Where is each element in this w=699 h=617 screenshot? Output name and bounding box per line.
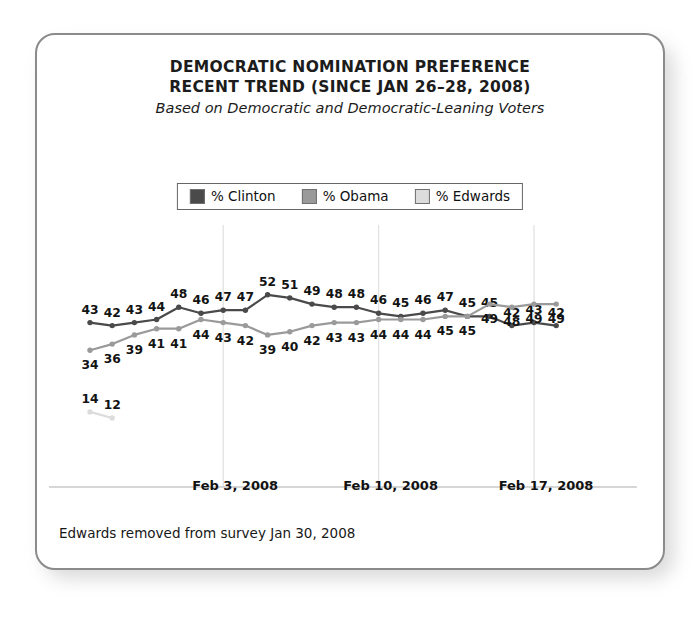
data-label: 49 (481, 312, 498, 326)
data-label: 42 (303, 334, 320, 348)
legend-swatch-obama (302, 189, 317, 204)
data-point[interactable] (376, 311, 381, 316)
data-label: 48 (503, 315, 520, 329)
legend-item-obama[interactable]: % Obama (302, 188, 389, 204)
data-point[interactable] (509, 305, 514, 310)
data-point[interactable] (221, 320, 226, 325)
data-label: 44 (392, 328, 409, 342)
data-label: 49 (525, 312, 542, 326)
chart-title-line-1: DEMOCRATIC NOMINATION PREFERENCE (37, 57, 663, 77)
data-point[interactable] (309, 301, 314, 306)
data-point[interactable] (376, 317, 381, 322)
data-point[interactable] (87, 320, 92, 325)
series-line-edwards (90, 412, 112, 418)
data-point[interactable] (221, 308, 226, 313)
data-point[interactable] (287, 295, 292, 300)
data-label: 39 (259, 343, 276, 357)
data-point[interactable] (110, 323, 115, 328)
x-tick-label-2: Feb 17, 2008 (499, 478, 594, 493)
data-point[interactable] (309, 323, 314, 328)
data-label: 49 (303, 284, 320, 298)
legend-label-obama: % Obama (323, 188, 389, 204)
data-point[interactable] (132, 332, 137, 337)
legend-swatch-edwards (415, 189, 430, 204)
data-point[interactable] (176, 326, 181, 331)
screenshot-root: DEMOCRATIC NOMINATION PREFERENCE RECENT … (0, 0, 699, 617)
data-point[interactable] (554, 301, 559, 306)
data-point[interactable] (332, 305, 337, 310)
data-label: 44 (192, 328, 209, 342)
data-point[interactable] (243, 323, 248, 328)
data-label: 52 (259, 275, 276, 289)
data-label: 48 (326, 287, 343, 301)
data-label: 48 (170, 287, 187, 301)
data-label: 47 (237, 290, 254, 304)
chart-subtitle: Based on Democratic and Democratic-Leani… (37, 100, 663, 116)
legend-item-clinton[interactable]: % Clinton (190, 188, 276, 204)
data-label: 49 (548, 312, 565, 326)
data-point[interactable] (487, 301, 492, 306)
data-label: 45 (459, 324, 476, 338)
data-point[interactable] (87, 348, 92, 353)
legend-label-clinton: % Clinton (211, 188, 276, 204)
data-label: 46 (414, 293, 431, 307)
x-axis-labels: Feb 3, 2008Feb 10, 2008Feb 17, 2008 (37, 478, 667, 502)
data-label: 45 (459, 296, 476, 310)
data-point[interactable] (465, 314, 470, 319)
data-label: 39 (126, 343, 143, 357)
data-label: 41 (170, 337, 187, 351)
plot-area: 4342434448464747525149484846454647454542… (37, 225, 667, 497)
data-point[interactable] (420, 317, 425, 322)
data-point[interactable] (420, 311, 425, 316)
data-point[interactable] (398, 317, 403, 322)
chart-card: DEMOCRATIC NOMINATION PREFERENCE RECENT … (35, 33, 665, 570)
data-label: 12 (104, 398, 121, 412)
data-label: 44 (148, 300, 165, 314)
data-point[interactable] (87, 409, 92, 414)
data-point[interactable] (132, 320, 137, 325)
legend-item-edwards[interactable]: % Edwards (415, 188, 510, 204)
data-label: 51 (281, 278, 298, 292)
data-point[interactable] (443, 308, 448, 313)
data-point[interactable] (198, 311, 203, 316)
chart-legend: % Clinton % Obama % Edwards (177, 183, 523, 210)
data-label: 43 (348, 331, 365, 345)
data-label: 42 (104, 306, 121, 320)
data-point[interactable] (531, 301, 536, 306)
line-chart-svg: 4342434448464747525149484846454647454542… (37, 225, 667, 497)
data-point[interactable] (354, 320, 359, 325)
data-label: 44 (414, 328, 431, 342)
data-label: 41 (148, 337, 165, 351)
data-point[interactable] (354, 305, 359, 310)
data-label: 47 (215, 290, 232, 304)
data-point[interactable] (265, 332, 270, 337)
data-point[interactable] (332, 320, 337, 325)
data-point[interactable] (176, 305, 181, 310)
data-point[interactable] (287, 329, 292, 334)
data-label: 45 (437, 324, 454, 338)
data-point[interactable] (154, 326, 159, 331)
data-label: 43 (215, 331, 232, 345)
data-label: 48 (348, 287, 365, 301)
data-point[interactable] (265, 292, 270, 297)
data-label: 42 (237, 334, 254, 348)
data-point[interactable] (243, 308, 248, 313)
chart-footnote: Edwards removed from survey Jan 30, 2008 (59, 525, 355, 541)
data-point[interactable] (154, 317, 159, 322)
data-label: 43 (81, 303, 98, 317)
data-label: 45 (392, 296, 409, 310)
data-label: 43 (126, 303, 143, 317)
data-label: 46 (192, 293, 209, 307)
data-label: 44 (370, 328, 387, 342)
legend-label-edwards: % Edwards (436, 188, 510, 204)
data-label: 36 (104, 352, 121, 366)
data-label: 47 (437, 290, 454, 304)
data-label: 46 (370, 293, 387, 307)
data-label: 34 (81, 358, 98, 372)
data-point[interactable] (110, 341, 115, 346)
data-point[interactable] (110, 415, 115, 420)
data-point[interactable] (443, 314, 448, 319)
data-label: 40 (281, 340, 298, 354)
data-point[interactable] (198, 317, 203, 322)
x-tick-label-1: Feb 10, 2008 (343, 478, 438, 493)
